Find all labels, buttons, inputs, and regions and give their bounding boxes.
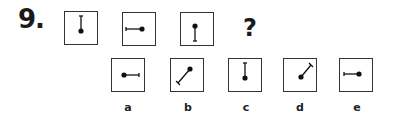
pin-right-icon [112, 59, 143, 90]
pin-left-icon [123, 13, 154, 44]
pin-down-left-icon [171, 59, 202, 90]
option-box-b[interactable] [170, 58, 204, 92]
option-box-e[interactable] [339, 58, 373, 92]
option-box-d[interactable] [283, 58, 317, 92]
option-label-b: b [178, 101, 198, 114]
option-box-c[interactable] [228, 58, 262, 92]
pin-down-icon [181, 13, 212, 44]
option-label-d: d [290, 101, 310, 114]
pin-up-right-icon [284, 59, 315, 90]
sequence-box-3 [180, 12, 214, 46]
option-label-e: e [347, 101, 367, 114]
question-number: 9. [18, 4, 44, 34]
pin-up-icon [65, 12, 96, 43]
option-box-a[interactable] [111, 58, 145, 92]
question-mark: ? [243, 14, 257, 42]
pin-left-icon [340, 59, 371, 90]
option-label-a: a [118, 101, 138, 114]
sequence-box-2 [122, 12, 156, 46]
pin-up-icon [229, 59, 260, 90]
sequence-box-1 [64, 11, 98, 45]
option-label-c: c [236, 101, 256, 114]
